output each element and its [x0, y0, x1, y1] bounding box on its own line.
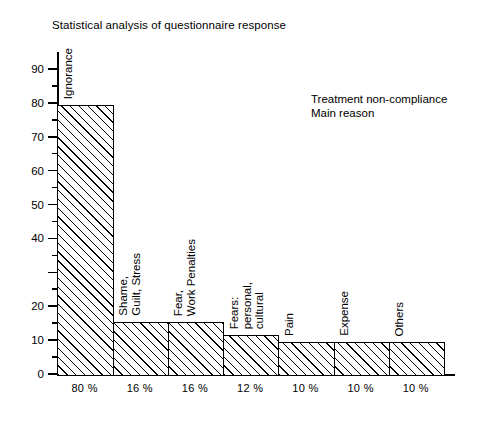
bar — [223, 335, 280, 376]
y-tick-label: 40 — [20, 232, 44, 244]
bar-label-line: Expense — [338, 291, 351, 336]
x-axis-tick-label: 16 % — [112, 382, 167, 394]
bar-label: Pain — [283, 313, 296, 336]
bar — [278, 342, 335, 376]
chart-figure: Statistical analysis of questionnaire re… — [0, 0, 480, 432]
bar — [112, 322, 169, 376]
x-axis-tick-label: 80 % — [57, 382, 112, 394]
bar — [167, 322, 224, 376]
bar-label-line: Guilt, Stress — [130, 253, 143, 316]
y-tick-label: 0 — [20, 368, 44, 380]
x-axis-tick-label: 10 % — [278, 382, 333, 394]
bar — [388, 342, 445, 376]
bar-label-line: cultural — [253, 282, 266, 329]
y-tick-label: 60 — [20, 165, 44, 177]
bar-label-line: Pain — [283, 313, 296, 336]
bar-label: Shame,Guilt, Stress — [117, 253, 142, 316]
y-tick-label: 80 — [20, 97, 44, 109]
bar — [333, 342, 390, 376]
bar-label-line: Fear, — [172, 239, 185, 316]
bar-label: Fear,Work Penalties — [172, 239, 197, 316]
bar-label-line: Shame, — [117, 253, 130, 316]
bar-label: Others — [393, 302, 406, 337]
bar-label-line: Ignorance — [62, 48, 75, 99]
bar-label-line: Fears: — [228, 282, 241, 329]
x-axis-tick-label: 12 % — [223, 382, 278, 394]
bar-label-line: Others — [393, 302, 406, 337]
x-axis-tick-label: 10 % — [333, 382, 388, 394]
bar — [57, 105, 114, 376]
x-axis-tick-label: 10 % — [388, 382, 443, 394]
y-tick-label: 10 — [20, 334, 44, 346]
bar-label-line: personal, — [240, 282, 253, 329]
bar-label: Ignorance — [62, 48, 75, 99]
bar-label: Expense — [338, 291, 351, 336]
chart-title: Statistical analysis of questionnaire re… — [52, 19, 286, 31]
y-tick-label: 50 — [20, 199, 44, 211]
x-axis-tick-label: 16 % — [167, 382, 222, 394]
y-tick-label: 20 — [20, 300, 44, 312]
y-tick-label: 90 — [20, 63, 44, 75]
y-tick-label: 70 — [20, 131, 44, 143]
bar-label: Fears:personal,cultural — [228, 282, 266, 329]
bar-label-line: Work Penalties — [185, 239, 198, 316]
